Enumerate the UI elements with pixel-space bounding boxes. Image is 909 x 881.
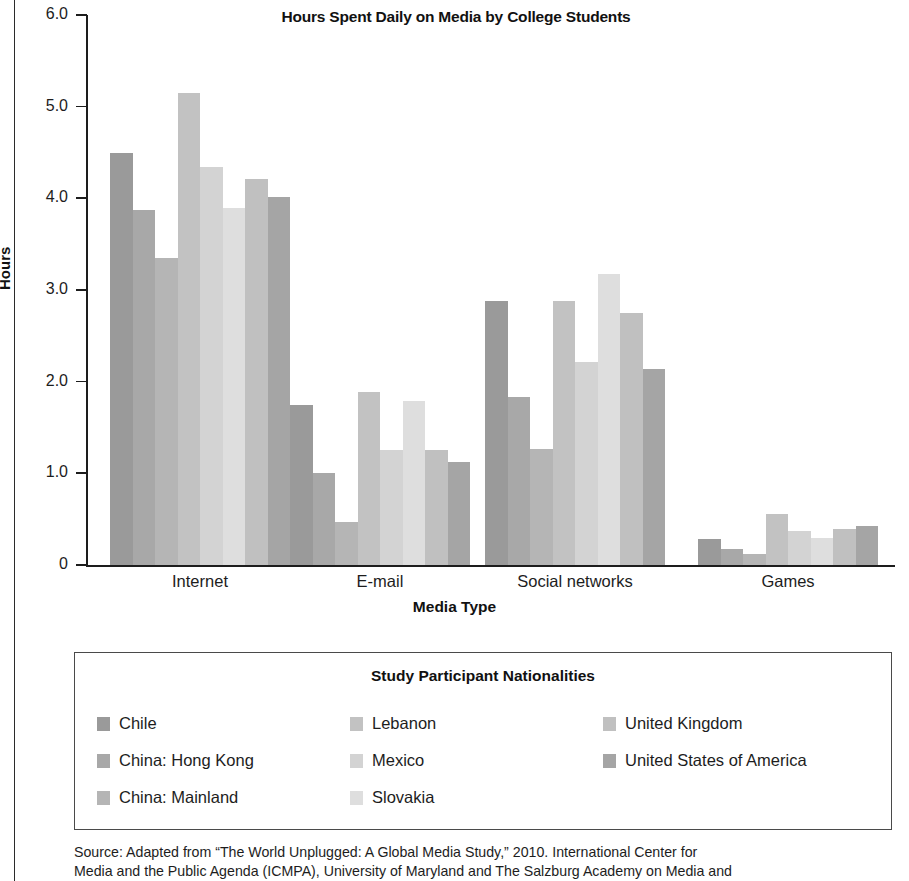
source-line-1: Adapted from “The World Unplugged: A Glo… bbox=[126, 844, 697, 860]
bar-games-united-states-of-america bbox=[856, 526, 879, 565]
chart-page: Hours Spent Daily on Media by College St… bbox=[0, 0, 909, 881]
legend-swatch-icon-lebanon bbox=[350, 717, 363, 731]
bar-internet-chile bbox=[110, 153, 133, 566]
bar-chart-figure: Hours Spent Daily on Media by College St… bbox=[0, 0, 909, 650]
bar-games-lebanon bbox=[766, 514, 789, 565]
bar-social-networks-lebanon bbox=[553, 301, 576, 565]
legend-swatch-icon-mexico bbox=[350, 754, 363, 768]
legend-label-china-hong-kong: China: Hong Kong bbox=[119, 752, 254, 769]
legend-columns: ChileChina: Hong KongChina: MainlandLeba… bbox=[97, 705, 883, 817]
bar-social-networks-slovakia bbox=[598, 274, 621, 565]
y-tick-label-3.0: 3.0 bbox=[12, 280, 68, 298]
x-category-label-e-mail: E-mail bbox=[270, 572, 490, 591]
legend-item-united-kingdom[interactable]: United Kingdom bbox=[603, 705, 853, 742]
legend-item-united-states-of-america[interactable]: United States of America bbox=[603, 742, 853, 779]
x-category-label-games: Games bbox=[678, 572, 898, 591]
y-tick-label-5.0: 5.0 bbox=[12, 97, 68, 115]
legend-item-lebanon[interactable]: Lebanon bbox=[350, 705, 600, 742]
bar-e-mail-slovakia bbox=[403, 401, 426, 565]
legend-item-mexico[interactable]: Mexico bbox=[350, 742, 600, 779]
x-category-label-social-networks: Social networks bbox=[465, 572, 685, 591]
bar-internet-lebanon bbox=[178, 93, 201, 565]
legend-column-2: LebanonMexicoSlovakia bbox=[350, 705, 600, 816]
bar-internet-mexico bbox=[200, 167, 223, 565]
legend-column-1: ChileChina: Hong KongChina: Mainland bbox=[97, 705, 347, 816]
bar-internet-china-hong-kong bbox=[133, 210, 156, 565]
legend-label-slovakia: Slovakia bbox=[372, 789, 434, 806]
legend-item-china-mainland[interactable]: China: Mainland bbox=[97, 779, 347, 816]
bar-social-networks-united-kingdom bbox=[620, 313, 643, 565]
bar-internet-slovakia bbox=[223, 208, 246, 565]
plot-area bbox=[86, 15, 895, 565]
bar-social-networks-china-hong-kong bbox=[508, 397, 531, 565]
bar-games-china-mainland bbox=[743, 554, 766, 565]
legend-box: Study Participant Nationalities ChileChi… bbox=[74, 652, 892, 830]
legend-label-united-kingdom: United Kingdom bbox=[625, 715, 742, 732]
bar-e-mail-united-kingdom bbox=[425, 450, 448, 565]
source-note: Source: Adapted from “The World Unplugge… bbox=[74, 843, 904, 881]
bar-series-container bbox=[86, 15, 895, 565]
bar-internet-united-kingdom bbox=[245, 179, 268, 565]
y-tick-label-2.0: 2.0 bbox=[12, 372, 68, 390]
x-axis-title: Media Type bbox=[0, 598, 909, 616]
bar-e-mail-chile bbox=[290, 405, 313, 565]
y-axis-tick-labels: 01.02.03.04.05.06.0 bbox=[6, 0, 68, 600]
y-tick-label-6.0: 6.0 bbox=[12, 5, 68, 23]
legend-item-slovakia[interactable]: Slovakia bbox=[350, 779, 600, 816]
bar-social-networks-chile bbox=[485, 301, 508, 565]
legend-label-mexico: Mexico bbox=[372, 752, 424, 769]
bar-e-mail-china-hong-kong bbox=[313, 473, 336, 565]
y-tick-label-0: 0 bbox=[12, 555, 68, 573]
bar-e-mail-china-mainland bbox=[335, 522, 358, 565]
bar-games-slovakia bbox=[811, 538, 834, 566]
legend-swatch-icon-chile bbox=[97, 717, 110, 731]
legend-swatch-icon-china-hong-kong bbox=[97, 754, 110, 768]
legend-swatch-icon-china-mainland bbox=[97, 791, 110, 805]
bar-social-networks-united-states-of-america bbox=[643, 369, 666, 565]
legend-title: Study Participant Nationalities bbox=[75, 667, 891, 685]
legend-label-china-mainland: China: Mainland bbox=[119, 789, 238, 806]
source-label: Source: bbox=[74, 844, 123, 860]
legend-label-chile: Chile bbox=[119, 715, 157, 732]
legend-swatch-icon-united-states-of-america bbox=[603, 754, 616, 768]
legend-label-united-states-of-america: United States of America bbox=[625, 752, 807, 769]
bar-social-networks-china-mainland bbox=[530, 449, 553, 565]
legend-item-china-hong-kong[interactable]: China: Hong Kong bbox=[97, 742, 347, 779]
bar-e-mail-united-states-of-america bbox=[448, 462, 471, 565]
bar-internet-united-states-of-america bbox=[268, 197, 291, 565]
bar-games-chile bbox=[698, 539, 721, 565]
x-axis-line bbox=[86, 565, 895, 567]
legend-swatch-icon-united-kingdom bbox=[603, 717, 616, 731]
bar-internet-china-mainland bbox=[155, 258, 178, 565]
bar-games-united-kingdom bbox=[833, 529, 856, 565]
y-tick-label-1.0: 1.0 bbox=[12, 463, 68, 481]
legend-item-chile[interactable]: Chile bbox=[97, 705, 347, 742]
bar-games-mexico bbox=[788, 531, 811, 565]
source-line-2: Media and the Public Agenda (ICMPA), Uni… bbox=[74, 862, 904, 881]
bar-e-mail-lebanon bbox=[358, 392, 381, 565]
bar-games-china-hong-kong bbox=[721, 549, 744, 565]
bar-social-networks-mexico bbox=[575, 362, 598, 565]
legend-column-3: United KingdomUnited States of America bbox=[603, 705, 853, 779]
legend-swatch-icon-slovakia bbox=[350, 791, 363, 805]
legend-label-lebanon: Lebanon bbox=[372, 715, 436, 732]
y-tick-label-4.0: 4.0 bbox=[12, 188, 68, 206]
bar-e-mail-mexico bbox=[380, 450, 403, 565]
